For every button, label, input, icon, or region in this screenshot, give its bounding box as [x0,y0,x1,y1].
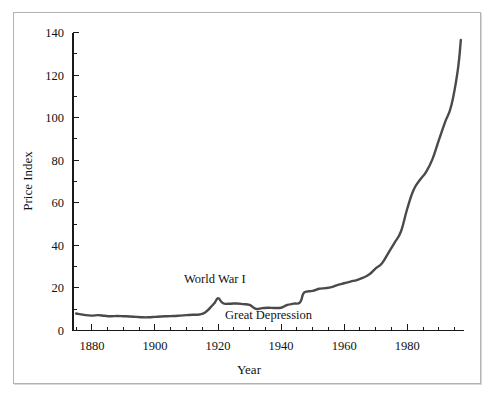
annotation-label: Great Depression [225,308,313,322]
y-tick-label: 140 [45,26,64,40]
y-tick-label: 100 [45,111,64,125]
price-index-line [76,40,461,317]
x-tick-label: 1880 [79,339,104,353]
x-axis-ticks [76,324,454,331]
y-tick-label: 80 [52,154,65,168]
x-tick-label: 1900 [142,339,167,353]
x-tick-label: 1980 [395,339,420,353]
chart-annotations: World War IGreat Depression [184,272,313,323]
y-axis-tick-labels: 020406080100120140 [45,26,64,338]
x-tick-label: 1940 [269,339,294,353]
figure-container: 020406080100120140 188019001920194019601… [0,0,494,397]
y-tick-label: 120 [45,69,64,83]
y-tick-label: 40 [52,239,65,253]
price-index-line-chart: 020406080100120140 188019001920194019601… [0,0,494,397]
x-tick-label: 1960 [332,339,357,353]
y-axis-title: Price Index [20,151,35,211]
x-axis-title: Year [237,362,262,377]
y-tick-label: 0 [58,324,64,338]
x-tick-label: 1920 [206,339,231,353]
y-tick-label: 20 [52,281,65,295]
annotation-label: World War I [184,272,246,286]
y-axis-ticks [73,33,79,331]
y-tick-label: 60 [52,196,65,210]
x-axis-tick-labels: 188019001920194019601980 [79,339,419,353]
